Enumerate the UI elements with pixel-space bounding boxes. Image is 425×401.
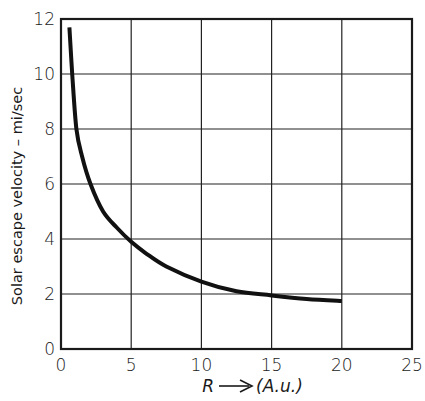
y-tick-label: 6 [44,174,55,194]
y-tick-label: 12 [33,9,55,29]
x-axis-label: R (A.u.) [202,376,303,396]
y-axis-label: Solar escape velocity – mi/sec [9,87,25,305]
y-tick-label: 2 [44,284,55,304]
x-tick-label: 10 [191,355,213,375]
chart: 024681012 0510152025 Solar escape veloci… [0,0,425,401]
x-tick-label: 15 [261,355,283,375]
y-tick-label: 8 [44,119,55,139]
arrow-right-icon [219,380,252,392]
escape-velocity-curve [69,27,341,301]
y-tick-label: 10 [33,64,55,84]
y-axis-ticks: 024681012 [33,9,55,359]
x-tick-label: 5 [126,355,137,375]
y-tick-label: 0 [44,339,55,359]
x-tick-label: 0 [56,355,67,375]
x-axis-ticks: 0510152025 [56,355,423,375]
x-tick-label: 20 [331,355,353,375]
grid-lines [61,19,412,349]
y-tick-label: 4 [44,229,55,249]
x-tick-label: 25 [401,355,423,375]
x-axis-label-unit: (A.u.) [256,376,303,396]
x-axis-label-r: R [202,376,214,396]
